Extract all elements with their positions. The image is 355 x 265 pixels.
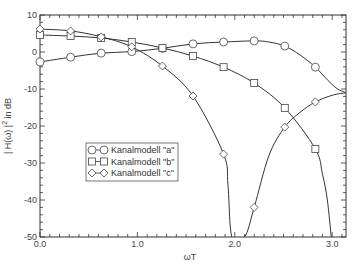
series-a-point <box>36 58 44 66</box>
series-a-point <box>189 40 197 48</box>
series-c-point <box>311 98 319 106</box>
y-axis-label-main: | H(ω) | <box>3 125 13 154</box>
series-a-point <box>250 37 258 45</box>
y-axis-label: | H(ω) |2 in dB <box>1 98 13 154</box>
legend-label: Kanalmodell "a" <box>111 145 174 155</box>
y-tick-label: -10 <box>24 84 37 94</box>
series-a-line <box>40 41 346 93</box>
series-b-point <box>220 64 227 71</box>
legend-entry-b: Kanalmodell "b" <box>89 157 175 167</box>
x-tick-label: 3.0 <box>326 239 339 249</box>
legend-marker <box>88 146 96 154</box>
series-a-point <box>67 53 75 61</box>
y-tick-label: 10 <box>27 10 37 20</box>
series-b-point <box>281 104 288 111</box>
legend-label: Kanalmodell "b" <box>111 157 174 167</box>
ticks: 0.01.02.03.0100-10-20-30-40-50 <box>24 10 346 249</box>
series-layer <box>36 25 346 242</box>
y-tick-label: -20 <box>24 121 37 131</box>
chart: 0.01.02.03.0100-10-20-30-40-50 ωT | H(ω)… <box>0 0 355 265</box>
series-b-point <box>190 53 197 60</box>
x-tick-label: 1.0 <box>131 239 144 249</box>
series-c-line <box>40 29 346 242</box>
y-tick-label: -50 <box>24 232 37 242</box>
legend-marker <box>89 158 96 165</box>
series-c-point <box>189 92 197 100</box>
legend-marker <box>100 146 108 154</box>
series-b-line <box>40 35 331 237</box>
y-tick-label: -40 <box>24 195 37 205</box>
series-a <box>36 37 346 93</box>
y-tick-label: -30 <box>24 158 37 168</box>
series-a-point <box>220 38 228 46</box>
series-a-point <box>281 42 289 50</box>
legend-label: Kanalmodell "c" <box>111 168 174 178</box>
x-axis-label: ωT <box>184 252 197 262</box>
y-axis-label-suffix: in dB <box>3 98 13 121</box>
x-tick-label: 2.0 <box>229 239 242 249</box>
series-b <box>37 31 332 237</box>
series-c-point <box>250 203 258 211</box>
series-a-point <box>311 63 319 71</box>
series-b-point <box>159 44 166 51</box>
series-c-point <box>220 150 228 158</box>
series-b-point <box>251 80 258 87</box>
legend-marker <box>101 158 108 165</box>
legend: Kanalmodell "a"Kanalmodell "b"Kanalmodel… <box>86 143 178 181</box>
y-tick-label: 0 <box>32 47 37 57</box>
series-b-point <box>312 145 319 152</box>
series-a-point <box>97 49 105 57</box>
